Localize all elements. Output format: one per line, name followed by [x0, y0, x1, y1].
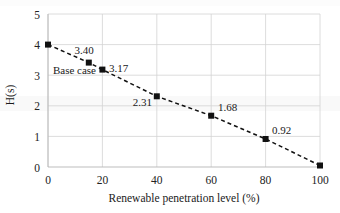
x-tick-60: 60: [205, 174, 217, 186]
x-axis-title: Renewable penetration level (%): [108, 192, 259, 205]
chart-figure: 3.40 3.17 2.31 1.68 0.92 Base case 5 4 3…: [0, 0, 340, 213]
y-tick-5: 5: [34, 9, 40, 21]
y-axis-title: H(s): [4, 85, 17, 106]
data-point-20[interactable]: [99, 67, 105, 73]
x-tick-100: 100: [311, 174, 329, 186]
y-axis-tick-labels: 5 4 3 2 1 0: [34, 9, 40, 174]
data-label-2-31: 2.31: [133, 96, 152, 108]
y-tick-0: 0: [34, 162, 40, 174]
data-point-60[interactable]: [208, 113, 214, 119]
data-label-1-68: 1.68: [218, 101, 238, 113]
data-point-80[interactable]: [263, 136, 269, 142]
y-tick-2: 2: [34, 100, 40, 112]
y-tick-4: 4: [34, 39, 40, 51]
vertical-gridlines: [48, 14, 320, 167]
data-point-markers: [45, 42, 323, 169]
data-point-labels: 3.40 3.17 2.31 1.68 0.92: [74, 44, 291, 136]
y-tick-3: 3: [34, 70, 40, 82]
x-tick-80: 80: [260, 174, 272, 186]
line-chart-plot: 3.40 3.17 2.31 1.68 0.92 Base case 5 4 3…: [0, 0, 340, 213]
y-tick-1: 1: [34, 131, 40, 143]
data-point-40[interactable]: [154, 93, 160, 99]
data-label-3-17: 3.17: [109, 62, 129, 74]
x-tick-0: 0: [45, 174, 51, 186]
x-axis-tick-labels: 0 20 40 60 80 100: [45, 174, 329, 186]
data-label-3-40: 3.40: [74, 44, 94, 56]
data-point-0[interactable]: [45, 42, 51, 48]
x-tick-20: 20: [97, 174, 109, 186]
annotation-base-case: Base case: [53, 64, 96, 76]
data-point-100[interactable]: [317, 163, 323, 169]
x-tick-40: 40: [151, 174, 163, 186]
data-label-0-92: 0.92: [272, 124, 291, 136]
